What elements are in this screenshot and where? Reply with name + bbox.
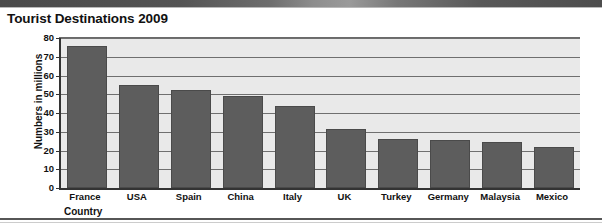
scan-artifact-top-edge <box>0 7 602 8</box>
y-axis-tick-label: 50 <box>43 89 54 99</box>
y-axis-tick <box>56 57 61 58</box>
y-axis-tick <box>56 113 61 114</box>
x-axis-tick-label: Malaysia <box>474 192 526 202</box>
bar <box>67 46 107 189</box>
gridline <box>61 38 580 39</box>
x-axis-title: Country <box>64 206 102 217</box>
y-axis-tick <box>56 188 61 189</box>
y-axis-tick-label: 70 <box>43 52 54 62</box>
x-axis-tick-labels: FranceUSASpainChinaItalyUKTurkeyGermanyM… <box>59 192 578 206</box>
y-axis-tick-label: 60 <box>43 71 54 81</box>
gridline <box>61 76 580 77</box>
x-axis-tick-label: China <box>215 192 267 202</box>
footer-rule <box>0 218 602 220</box>
footer-rule-secondary <box>0 222 602 223</box>
bar <box>171 90 211 188</box>
x-axis-tick-label: UK <box>319 192 371 202</box>
y-axis-tick <box>56 132 61 133</box>
bar <box>430 140 470 188</box>
y-axis-tick-label: 30 <box>43 127 54 137</box>
y-axis-tick-label: 80 <box>43 33 54 43</box>
y-axis-tick <box>56 169 61 170</box>
bar <box>119 85 159 188</box>
y-axis-title-wrapper: Numbers in millions <box>22 60 36 180</box>
y-axis-tick <box>56 76 61 77</box>
bar <box>223 96 263 188</box>
y-axis-tick <box>56 151 61 152</box>
bar <box>534 147 574 188</box>
x-axis-tick-label: France <box>59 192 111 202</box>
y-axis-tick-label: 10 <box>43 164 54 174</box>
y-axis-tick-labels: 01020304050607080 <box>36 38 54 188</box>
bar <box>482 142 522 188</box>
x-axis-tick-label: Spain <box>163 192 215 202</box>
y-axis-tick-label: 0 <box>49 183 54 193</box>
y-axis-tick <box>56 38 61 39</box>
y-axis-tick-label: 20 <box>43 146 54 156</box>
plot-area <box>59 38 580 190</box>
x-axis-tick-label: Germany <box>422 192 474 202</box>
page-title: Tourist Destinations 2009 <box>7 11 168 26</box>
gridline <box>61 57 580 58</box>
y-axis-tick-label: 40 <box>43 108 54 118</box>
x-axis-tick-label: Italy <box>267 192 319 202</box>
x-axis-tick-label: USA <box>111 192 163 202</box>
chart-page: Tourist Destinations 2009 Numbers in mil… <box>0 0 602 224</box>
y-axis-tick <box>56 94 61 95</box>
x-axis-tick-label: Turkey <box>370 192 422 202</box>
scan-artifact-top-bar <box>0 0 602 7</box>
x-axis-tick-label: Mexico <box>526 192 578 202</box>
bar <box>275 106 315 189</box>
bar <box>378 139 418 188</box>
bar <box>326 129 366 188</box>
